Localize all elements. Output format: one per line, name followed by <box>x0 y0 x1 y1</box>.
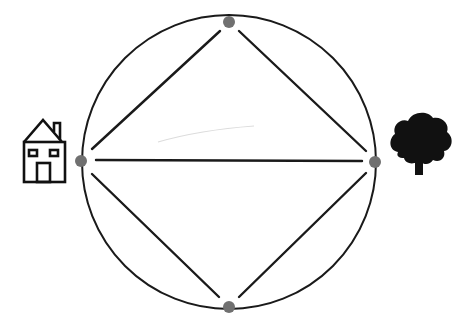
house-icon <box>24 120 65 182</box>
edge-left-bottom <box>92 174 219 297</box>
node-left[interactable] <box>75 155 87 167</box>
edge-left-right <box>96 160 362 161</box>
edge-left-top <box>92 31 220 149</box>
edge-bottom-right <box>239 173 366 297</box>
diagram: Routes from house to tree <box>0 0 466 328</box>
node-right[interactable] <box>369 156 381 168</box>
edges <box>92 31 366 297</box>
tree-icon <box>390 113 451 175</box>
faint-mark <box>158 126 254 142</box>
diagram-canvas <box>0 0 466 328</box>
node-bottom[interactable] <box>223 301 235 313</box>
edge-top-right <box>239 31 366 151</box>
node-top[interactable] <box>223 16 235 28</box>
